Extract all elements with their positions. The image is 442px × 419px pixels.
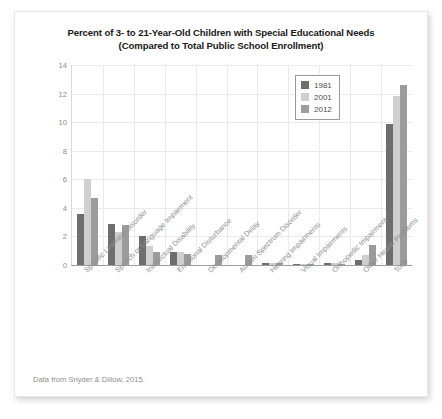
y-axis-tick: 8 (63, 146, 67, 155)
legend-item: 1981 (301, 79, 332, 91)
y-axis-tick: 14 (59, 61, 67, 70)
chart-legend: 198120012012 (295, 75, 340, 120)
y-axis-tick: 2 (63, 232, 67, 241)
bar-1981 (324, 263, 331, 265)
y-axis-tick-labels: 02468101214 (35, 65, 67, 265)
y-axis-tick: 10 (59, 118, 67, 127)
legend-label: 1981 (314, 81, 332, 90)
chart-title-line-2: (Compared to Total Public School Enrollm… (35, 39, 407, 52)
legend-label: 2001 (314, 93, 332, 102)
bar-1981 (262, 263, 269, 265)
page-title: Percent of 3- to 21-Year-Old Children wi… (35, 26, 407, 52)
bar-2001 (84, 179, 91, 265)
chart-title-line-1: Percent of 3- to 21-Year-Old Children wi… (67, 27, 374, 38)
legend-item: 2012 (301, 103, 332, 115)
bar-1981 (355, 260, 362, 265)
y-axis-tick: 12 (59, 89, 67, 98)
y-axis-tick: 4 (63, 203, 67, 212)
bar-1981 (170, 252, 177, 265)
figure-card: Percent of 3- to 21-Year-Old Children wi… (14, 11, 428, 397)
legend-label: 2012 (314, 105, 332, 114)
y-axis-tick: 0 (63, 261, 67, 270)
x-axis-tick-labels: Specific Learning DisorderSpeech or Lang… (71, 268, 411, 368)
legend-swatch-icon (301, 93, 309, 101)
legend-swatch-icon (301, 105, 309, 113)
bar-1981 (77, 214, 84, 265)
plot-container: 02468101214 198120012012 Specific Learni… (15, 65, 429, 280)
legend-item: 2001 (301, 91, 332, 103)
bar-group (72, 65, 103, 265)
legend-swatch-icon (301, 81, 309, 89)
y-axis-tick: 6 (63, 175, 67, 184)
bar-1981 (293, 264, 300, 265)
source-note: Data from Snyder & Dillow, 2015. (33, 375, 145, 384)
